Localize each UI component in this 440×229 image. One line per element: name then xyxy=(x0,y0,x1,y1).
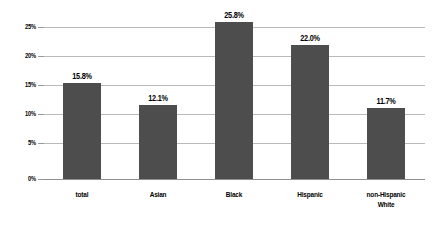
category-label-total: total xyxy=(49,190,114,200)
category-label-non-hispanic-white: non-Hispanic White xyxy=(353,190,418,209)
category-label-hispanic: Hispanic xyxy=(277,190,342,200)
category-label-line: White xyxy=(353,200,418,210)
category-label-line: total xyxy=(49,190,114,200)
y-axis-label-5: 5% xyxy=(6,139,36,146)
bar-asian[interactable] xyxy=(139,105,177,179)
category-label-line: Asian xyxy=(125,190,190,200)
bar-group-non-hispanic-white: 11.7% non-Hispanic White xyxy=(348,0,424,229)
bar-group-black: 25.8% Black xyxy=(196,0,272,229)
category-label-line: Hispanic xyxy=(277,190,342,200)
y-axis-label-0: 0% xyxy=(6,175,36,182)
category-label-black: Black xyxy=(201,190,266,200)
y-axis-label-15: 15% xyxy=(6,81,36,88)
bar-hispanic[interactable] xyxy=(291,45,329,179)
bar-value-non-hispanic-white: 11.7% xyxy=(353,96,418,106)
category-label-asian: Asian xyxy=(125,190,190,200)
y-axis-label-20: 20% xyxy=(6,52,36,59)
bar-value-asian: 12.1% xyxy=(125,93,190,103)
bar-black[interactable] xyxy=(215,22,253,179)
y-axis-label-25: 25% xyxy=(6,23,36,30)
bar-group-total: 15.8% total xyxy=(44,0,120,229)
bar-non-hispanic-white[interactable] xyxy=(367,108,405,179)
bar-chart: 25% 20% 15% 10% 5% 0% 15.8% total 12.1% … xyxy=(0,0,440,229)
bar-group-hispanic: 22.0% Hispanic xyxy=(272,0,348,229)
bar-value-hispanic: 22.0% xyxy=(277,33,342,43)
bar-value-total: 15.8% xyxy=(49,71,114,81)
y-axis-label-10: 10% xyxy=(6,110,36,117)
category-label-line: non-Hispanic xyxy=(353,190,418,200)
bar-group-asian: 12.1% Asian xyxy=(120,0,196,229)
bar-total[interactable] xyxy=(63,83,101,179)
bar-series: 15.8% total 12.1% Asian 25.8% Black 22.0… xyxy=(44,0,425,229)
bar-value-black: 25.8% xyxy=(201,10,266,20)
category-label-line: Black xyxy=(201,190,266,200)
